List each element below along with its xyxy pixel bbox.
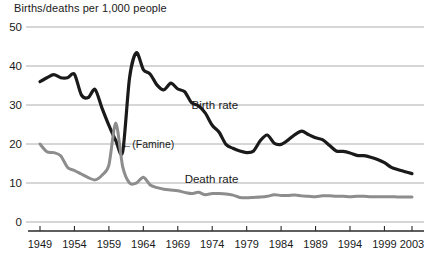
series-inline-labels: Birth rateDeath rate <box>185 99 239 185</box>
y-tick-label-0: 0 <box>16 216 22 228</box>
famine-annotation: ←(Famine) <box>122 138 175 150</box>
y-tick-label-40: 40 <box>9 60 22 72</box>
x-tick-label-1989: 1989 <box>303 238 327 250</box>
x-tick-label-1994: 1994 <box>338 238 362 250</box>
axes-group <box>28 226 424 231</box>
x-tick-label-1949: 1949 <box>28 238 52 250</box>
y-tick-label-50: 50 <box>9 21 22 33</box>
series-label-birth-rate: Birth rate <box>192 99 239 111</box>
y-tick-label-30: 30 <box>9 99 22 111</box>
x-tick-label-1974: 1974 <box>200 238 224 250</box>
y-axis-tick-labels: 01020304050 <box>9 21 22 228</box>
chart-plot-area: ←(Famine) 01020304050 194919541959196419… <box>0 0 427 265</box>
y-tick-label-10: 10 <box>9 177 22 189</box>
x-tick-label-1984: 1984 <box>269 238 293 250</box>
x-tick-label-1954: 1954 <box>62 238 86 250</box>
x-axis-tick-labels: 1949195419591964196919741979198419891994… <box>28 238 424 250</box>
series-label-death-rate: Death rate <box>185 173 239 185</box>
x-tick-label-1979: 1979 <box>234 238 258 250</box>
series-line-birth-rate <box>40 53 412 174</box>
x-tick-label-2003: 2003 <box>400 238 424 250</box>
x-tick-label-1999: 1999 <box>372 238 396 250</box>
chart-container: Births/deaths per 1,000 people ←(Famine)… <box>0 0 427 265</box>
series-line-death-rate <box>40 123 412 198</box>
x-tick-label-1964: 1964 <box>131 238 155 250</box>
y-tick-label-20: 20 <box>9 138 22 150</box>
annotations-group: ←(Famine) <box>122 138 175 150</box>
x-tick-label-1969: 1969 <box>166 238 190 250</box>
x-tick-label-1959: 1959 <box>97 238 121 250</box>
